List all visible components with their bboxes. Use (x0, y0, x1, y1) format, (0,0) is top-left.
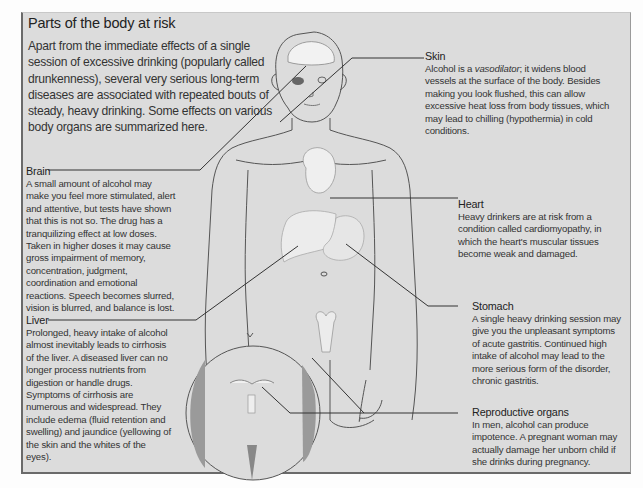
skin-text-italic: vasodilator (475, 63, 520, 74)
skin-callout: Skin Alcohol is a vasodilator; it widens… (425, 50, 617, 137)
liver-callout: Liver Prolonged, heavy intake of alcohol… (26, 314, 171, 463)
brain-text: A small amount of alcohol may make you f… (26, 178, 175, 313)
stomach-heading: Stomach (472, 300, 624, 313)
intro-paragraph: Apart from the immediate effects of a si… (28, 38, 278, 136)
stomach-callout: Stomach A single heavy drinking session … (472, 300, 624, 387)
heart-callout: Heart Heavy drinkers are at risk from a … (458, 198, 623, 261)
liver-heading: Liver (26, 314, 171, 327)
skin-heading: Skin (425, 50, 617, 63)
liver-text: Prolonged, heavy intake of alcohol almos… (26, 327, 171, 462)
brain-callout: Brain A small amount of alcohol may make… (26, 165, 176, 314)
brain-heading: Brain (26, 165, 176, 178)
skin-text-1: Alcohol is a (425, 63, 475, 74)
stomach-text: A single heavy drinking session may give… (472, 313, 621, 386)
reproductive-heading: Reproductive organs (472, 406, 622, 419)
reproductive-callout: Reproductive organs In men, alcohol can … (472, 406, 622, 469)
heart-text: Heavy drinkers are at risk from a condit… (458, 211, 601, 259)
page-title: Parts of the body at risk (28, 15, 175, 31)
heart-heading: Heart (458, 198, 623, 211)
reproductive-text: In men, alcohol can produce impotence. A… (472, 419, 617, 467)
